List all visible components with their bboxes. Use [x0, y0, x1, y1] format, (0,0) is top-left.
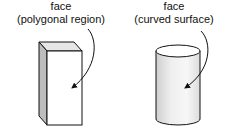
- diagram-canvas: [0, 0, 230, 134]
- rectangular-prism: [39, 42, 82, 125]
- cylinder-curved-surface: [156, 51, 200, 125]
- cylinder-top-face: [156, 45, 200, 57]
- prism-front-face: [47, 51, 82, 125]
- cylinder: [156, 45, 200, 125]
- prism-side-face: [39, 42, 47, 125]
